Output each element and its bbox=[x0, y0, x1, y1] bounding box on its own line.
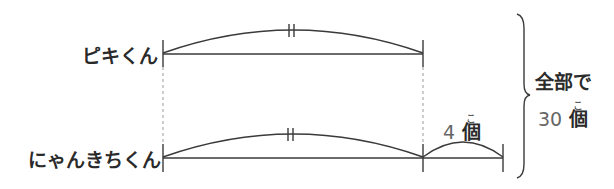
total-label: 30 個こ bbox=[538, 104, 588, 131]
pikikun-bar bbox=[163, 24, 423, 67]
row-label-pikikun: ピキくん bbox=[82, 41, 158, 68]
difference-label: 4 個こ bbox=[443, 117, 481, 144]
difference-unit: 個こ bbox=[462, 121, 481, 143]
total-brace bbox=[517, 14, 530, 178]
row-label-nyankichikun: にゃんきちくん bbox=[28, 145, 161, 172]
difference-value: 4 bbox=[443, 121, 455, 143]
total-unit-reading: こ bbox=[573, 97, 583, 112]
total-unit: 個こ bbox=[569, 108, 588, 130]
total-prefix: 全部で bbox=[535, 67, 592, 94]
total-value: 30 bbox=[538, 108, 562, 130]
difference-unit-reading: こ bbox=[466, 110, 476, 125]
